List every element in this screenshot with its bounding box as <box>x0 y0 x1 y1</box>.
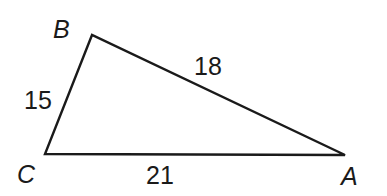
vertex-label-c: C <box>17 160 36 188</box>
side-label-bc: 15 <box>24 86 52 114</box>
vertex-label-a: A <box>339 162 358 190</box>
side-label-ca: 21 <box>146 161 174 189</box>
vertex-label-b: B <box>53 15 70 43</box>
triangle-diagram: B C A 15 18 21 <box>0 0 387 196</box>
side-label-ba: 18 <box>194 52 222 80</box>
